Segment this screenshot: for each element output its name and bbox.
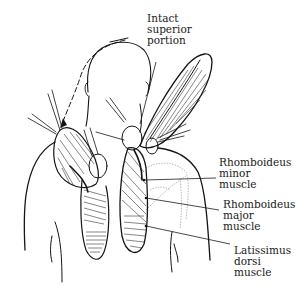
right-figure-outline — [146, 148, 210, 272]
label-intact-superior-portion: Intact superior portion — [147, 13, 192, 46]
label-rhomboideus-major: Rhomboideus major muscle — [223, 199, 295, 232]
label-line: muscle — [223, 221, 295, 232]
label-latissimus-dorsi: Latissimus dorsi muscle — [234, 245, 291, 278]
label-line: muscle — [219, 179, 291, 190]
right-donor-bed — [120, 148, 147, 253]
left-donor-bed — [81, 180, 109, 259]
label-line: muscle — [234, 267, 291, 278]
leader-latissimus-dorsi — [146, 226, 230, 244]
anatomical-figure: Intact superior portion Rhomboideus mino… — [0, 0, 303, 294]
label-rhomboideus-minor: Rhomboideus minor muscle — [219, 157, 291, 190]
leader-lines — [140, 62, 230, 244]
leader-rhomboideus-major — [146, 198, 219, 210]
left-retractor-lines — [28, 90, 126, 134]
left-muscle-flap — [54, 128, 107, 192]
label-line: portion — [147, 35, 192, 46]
leader-intact-superior — [140, 62, 156, 124]
